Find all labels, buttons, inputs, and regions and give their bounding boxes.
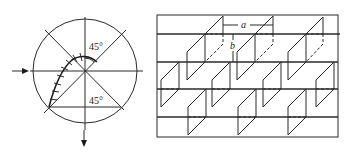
dimension-a-label: a (241, 19, 246, 30)
right-arrow-icon (12, 68, 29, 74)
down-arrow-icon (81, 130, 87, 147)
dimension-b-label: b (230, 40, 235, 51)
angle-label-top: 45° (89, 41, 103, 52)
fin (238, 89, 256, 135)
fin-array-diagram: a b (157, 15, 340, 137)
dimension-a: a (223, 19, 273, 30)
fin-row-upper (187, 16, 323, 80)
fin (316, 62, 334, 107)
fin (161, 62, 179, 107)
fin (212, 62, 230, 107)
circle-diagram: 45° 45° (12, 17, 143, 147)
fin (263, 62, 281, 107)
fin (288, 17, 323, 80)
hatch-ticks (50, 53, 82, 100)
fin (188, 89, 206, 135)
fin (288, 89, 306, 135)
angle-label-bottom: 45° (89, 95, 103, 106)
fin (187, 16, 223, 80)
dimension-b: b (230, 34, 235, 62)
fin-row-lower (188, 89, 306, 135)
figure-canvas: 45° 45° (0, 0, 354, 152)
